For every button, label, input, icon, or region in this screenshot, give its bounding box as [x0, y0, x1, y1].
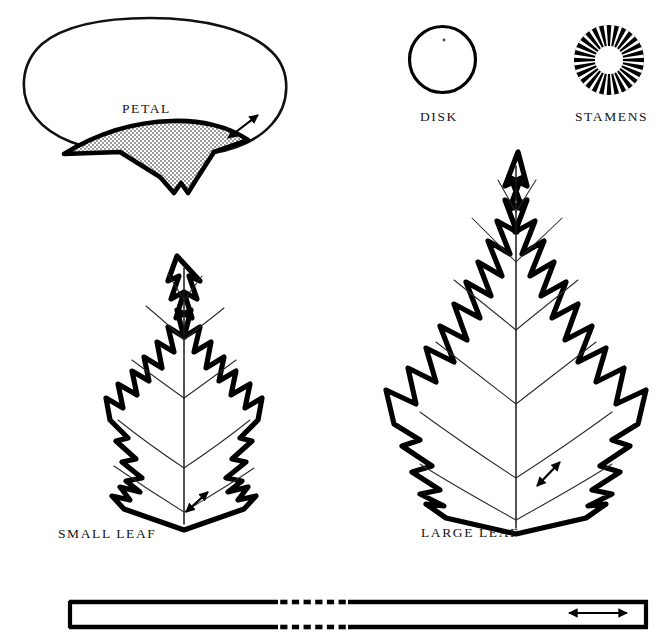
disk-outline — [410, 27, 476, 93]
figure-stamens: STAMENS — [574, 25, 648, 124]
stamens-center-hub — [595, 46, 623, 74]
disk-center-dot — [443, 39, 446, 42]
scale-bar-break-dashes — [280, 602, 346, 627]
plate-canvas: PETAL DISK STAMENS SMA — [0, 0, 666, 638]
botanical-plate: PETAL DISK STAMENS SMA — [0, 0, 666, 638]
stamens-spokes — [574, 25, 644, 95]
small-leaf-label: SMALL LEAF — [58, 526, 156, 541]
figure-petal: PETAL — [24, 18, 286, 193]
figure-scale-bar — [69, 601, 648, 628]
figure-large-leaf: LARGE LEAF — [386, 152, 646, 540]
figure-disk: DISK — [410, 27, 476, 125]
large-leaf-label: LARGE LEAF — [421, 525, 519, 540]
disk-label: DISK — [420, 109, 458, 124]
figure-small-leaf: SMALL LEAF — [58, 256, 262, 541]
stamens-label: STAMENS — [575, 109, 648, 124]
petal-label: PETAL — [122, 101, 171, 116]
